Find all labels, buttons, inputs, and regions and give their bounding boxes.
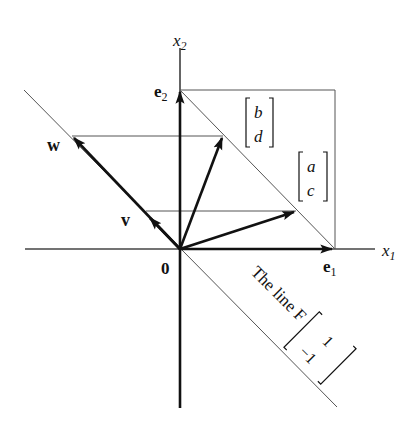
vector-v [150, 218, 180, 249]
svg-text:b: b [254, 103, 263, 122]
svg-text:c: c [307, 181, 315, 200]
diagram-canvas: x2 x1 e2 e1 0 w v b d a c The line F 1 −… [0, 0, 416, 425]
vector-ac [180, 212, 294, 249]
x1-axis-label: x1 [381, 241, 396, 263]
line-F-label: The line F [247, 262, 310, 325]
svg-text:1: 1 [319, 332, 337, 350]
column-ac: a c [299, 152, 327, 201]
x2-axis-label: x2 [172, 31, 187, 53]
vector-bd [180, 138, 222, 249]
svg-text:d: d [254, 127, 263, 146]
origin-label: 0 [161, 259, 170, 278]
w-label: w [47, 135, 60, 155]
v-label: v [121, 210, 130, 230]
svg-text:−1: −1 [296, 343, 320, 367]
diagram-svg: x2 x1 e2 e1 0 w v b d a c The line F 1 −… [0, 0, 416, 425]
e1-label: e1 [323, 257, 337, 279]
line-F-text: The line F [247, 262, 310, 325]
svg-text:a: a [307, 157, 316, 176]
column-bd: b d [246, 98, 273, 147]
e2-label: e2 [154, 82, 168, 104]
